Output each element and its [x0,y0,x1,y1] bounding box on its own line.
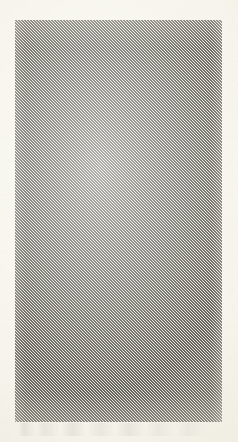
scanned-page [0,0,238,442]
diagonal-hatch-fill [15,20,222,422]
diagonal-hatch-block [15,20,222,422]
